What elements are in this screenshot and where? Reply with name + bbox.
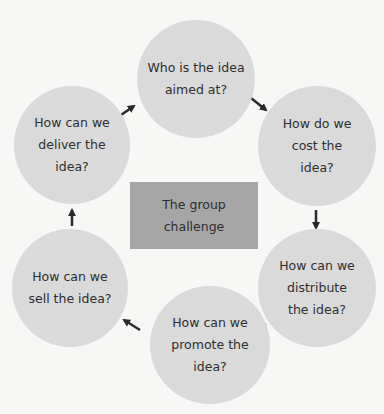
arrow-promote-to-sell [124, 320, 140, 330]
arrow-aimed-to-cost [251, 98, 266, 110]
node-promote: How can we promote the idea? [150, 286, 270, 404]
node-cost-label: How do we cost the idea? [283, 113, 352, 179]
node-distribute-label: How can we distribute the idea? [279, 255, 355, 321]
node-cost: How do we cost the idea? [258, 86, 376, 206]
node-aimed: Who is the idea aimed at? [137, 20, 255, 138]
node-deliver: How can we deliver the idea? [14, 86, 130, 204]
node-sell: How can we sell the idea? [12, 229, 128, 347]
center-challenge-box: The group challenge [130, 182, 258, 249]
node-deliver-label: How can we deliver the idea? [34, 112, 110, 178]
node-aimed-label: Who is the idea aimed at? [147, 57, 244, 101]
node-distribute: How can we distribute the idea? [258, 229, 376, 347]
arrow-deliver-to-aimed [121, 106, 134, 115]
node-sell-label: How can we sell the idea? [28, 266, 111, 310]
node-promote-label: How can we promote the idea? [171, 312, 248, 378]
